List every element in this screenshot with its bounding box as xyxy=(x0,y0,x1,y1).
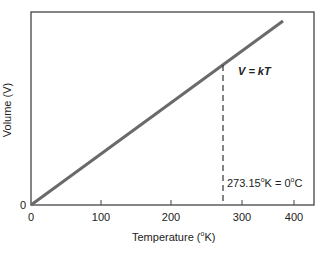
y-zero-label: 0 xyxy=(20,199,26,211)
x-ticks xyxy=(101,200,294,205)
temperature-annotation: 273.15oK = 0oC xyxy=(227,176,302,189)
x-tick-label: 100 xyxy=(92,211,110,223)
x-axis-label: Temperature (oK) xyxy=(132,230,215,243)
formula-annotation: V = kT xyxy=(238,65,271,77)
x-tick-label: 400 xyxy=(285,211,303,223)
x-tick-label: 0 xyxy=(28,211,34,223)
x-tick-label: 200 xyxy=(162,211,180,223)
x-tick-label: 300 xyxy=(233,211,251,223)
y-axis-label: Volume (V) xyxy=(1,83,13,137)
